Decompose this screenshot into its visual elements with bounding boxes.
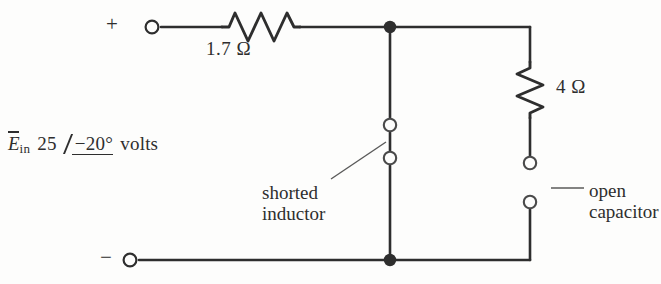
source-magnitude: 25 — [37, 133, 57, 154]
series-resistor-value-label: 1.7 Ω — [206, 38, 251, 59]
shunt-resistor-symbol — [517, 62, 543, 118]
negative-terminal-circle — [124, 254, 137, 267]
positive-terminal-circle — [146, 21, 159, 34]
phasor-angle-slash-icon — [63, 134, 73, 154]
open-capacitor-line-1: open — [589, 180, 659, 201]
shorted-inductor-line-1: shorted — [262, 182, 325, 203]
capacitor-terminal-bottom-circle — [524, 196, 536, 208]
capacitor-terminal-top-circle — [524, 157, 536, 169]
shorted-inductor-leader-line — [331, 142, 386, 179]
phasor-angle-underline — [72, 154, 114, 156]
phasor-angle-group: −20° — [62, 133, 114, 154]
inductor-terminal-bottom-circle — [384, 152, 396, 164]
shorted-inductor-line-2: inductor — [262, 203, 325, 224]
source-symbol-E: E — [8, 131, 20, 154]
open-capacitor-annotation: open capacitor — [589, 180, 659, 223]
shunt-resistor-value-label: 4 Ω — [556, 76, 586, 97]
open-capacitor-line-2: capacitor — [589, 201, 659, 222]
source-angle-value: −20° — [75, 133, 114, 154]
shorted-inductor-annotation: shorted inductor — [262, 182, 325, 225]
source-phasor-label: Ein 25 −20° volts — [8, 131, 158, 154]
series-resistor-symbol — [222, 13, 300, 41]
top-junction-dot — [384, 21, 396, 33]
negative-polarity-sign: − — [100, 246, 112, 270]
positive-polarity-sign: + — [106, 13, 118, 37]
source-subscript: in — [20, 142, 31, 157]
source-symbol-text: E — [8, 133, 20, 154]
bottom-junction-dot — [384, 254, 396, 266]
source-overbar — [8, 131, 19, 133]
circuit-diagram-figure: + − 1.7 Ω 4 Ω Ein 25 −20° volts shorted … — [0, 0, 661, 284]
source-units: volts — [120, 133, 158, 154]
inductor-terminal-top-circle — [384, 119, 396, 131]
